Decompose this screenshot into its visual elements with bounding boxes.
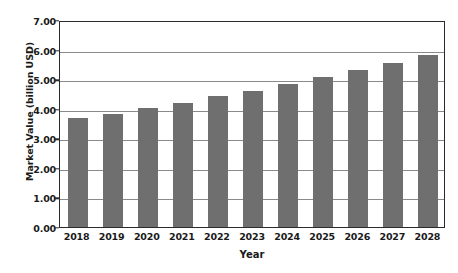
x-axis-tick-label: 2023 — [239, 231, 265, 242]
x-axis-tick-label: 2020 — [134, 231, 160, 242]
y-axis-tick-labels: 0.001.002.003.004.005.006.007.00 — [0, 0, 56, 273]
x-axis-tick-label: 2022 — [204, 231, 230, 242]
bar — [418, 55, 438, 227]
bar — [313, 77, 333, 227]
bar — [383, 63, 403, 227]
y-axis-tick-label: 0.00 — [2, 223, 56, 234]
y-axis-tick-label: 7.00 — [2, 16, 56, 27]
bar-chart: Market Value (billion USD) 0.001.002.003… — [0, 0, 458, 273]
x-axis-tick-label: 2027 — [380, 231, 406, 242]
bars-layer — [60, 22, 444, 227]
x-axis-tick-label: 2024 — [274, 231, 300, 242]
x-axis-tick-label: 2018 — [64, 231, 90, 242]
x-axis-tick-label: 2025 — [309, 231, 335, 242]
bar — [348, 70, 368, 227]
x-axis-title: Year — [59, 249, 445, 260]
y-axis-tick-label: 2.00 — [2, 163, 56, 174]
bar — [173, 103, 193, 228]
bar — [68, 118, 88, 227]
plot-area — [59, 21, 445, 228]
bar — [138, 108, 158, 227]
bar — [208, 96, 228, 227]
y-axis-tick-label: 5.00 — [2, 75, 56, 86]
y-axis-tick-label: 3.00 — [2, 134, 56, 145]
y-axis-tick-label: 4.00 — [2, 104, 56, 115]
x-axis-tick-label: 2028 — [415, 231, 441, 242]
y-axis-tick-label: 6.00 — [2, 45, 56, 56]
bar — [103, 114, 123, 227]
x-axis-tick-label: 2019 — [99, 231, 125, 242]
bar — [243, 91, 263, 227]
bar — [278, 84, 298, 227]
x-axis-tick-labels: 2018201920202021202220232024202520262027… — [59, 231, 445, 247]
y-axis-tick-label: 1.00 — [2, 193, 56, 204]
x-axis-tick-label: 2021 — [169, 231, 195, 242]
x-axis-tick-label: 2026 — [344, 231, 370, 242]
